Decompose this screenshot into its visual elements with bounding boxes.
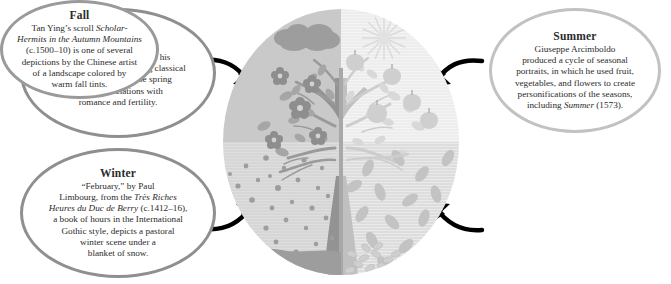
winter-snow-drift [222, 248, 341, 276]
callout-body-line: Limbourg, from the Très Riches [49, 192, 188, 203]
callout-body-line: personifications of the seasons, [515, 89, 635, 100]
callout-body-line: a book of hours in the International [49, 214, 188, 225]
callout-summer-title: Summer [553, 30, 596, 43]
callout-body-line: depictions by the Chinese artist [17, 57, 142, 68]
callout-body-line: Heures du Duc de Berry (c.1412–16), [49, 203, 188, 214]
callout-body-line: vegetables, and flowers to create [515, 78, 635, 89]
callout-body-line: warm fall tints. [17, 79, 142, 90]
callout-body-line: including Summer (1573). [515, 100, 635, 111]
callout-body-line: “February,” by Paul [49, 181, 188, 192]
callout-body-line: (c.1500–10) is one of several [17, 45, 142, 56]
callout-body-line: of a landscape colored by [17, 68, 142, 79]
callout-winter[interactable]: Winter “February,” by PaulLimbourg, from… [20, 148, 216, 278]
callout-body-line: Giuseppe Arcimboldo [515, 44, 635, 55]
callout-fall[interactable]: Fall Tan Ying’s scroll Scholar-Hermits i… [0, 0, 159, 99]
callout-body-line: winter scene under a [49, 237, 188, 248]
callout-summer[interactable]: Summer Giuseppe Arcimboldoproduced a cyc… [489, 8, 661, 133]
callout-body-line: Hermits in the Autumn Mountains [17, 34, 142, 45]
callout-body-line: blanket of snow. [49, 248, 188, 259]
callout-body-line: Tan Ying’s scroll Scholar- [17, 23, 142, 34]
callout-body-line: Gothic style, depicts a pastoral [49, 226, 188, 237]
four-season-tree-circle [222, 8, 460, 276]
callout-winter-body: “February,” by PaulLimbourg, from the Tr… [49, 181, 188, 259]
callout-winter-title: Winter [100, 167, 136, 180]
callout-summer-body: Giuseppe Arcimboldoproduced a cycle of s… [515, 44, 635, 111]
callout-body-line: produced a cycle of seasonal [515, 55, 635, 66]
callout-fall-body: Tan Ying’s scroll Scholar-Hermits in the… [17, 23, 142, 90]
summer-sun [362, 16, 406, 60]
callout-fall-title: Fall [69, 9, 89, 22]
seasons-diagram: Spring Sandro Botticelli painted hisPrim… [0, 0, 671, 284]
callout-body-line: portraits, in which he used fruit, [515, 66, 635, 77]
